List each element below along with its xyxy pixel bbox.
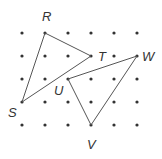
grid-dot <box>66 123 69 126</box>
grid-dot <box>89 100 92 103</box>
grid-dot <box>43 123 46 126</box>
grid-dot <box>112 100 115 103</box>
label-W: W <box>142 49 156 64</box>
grid-dot <box>112 54 115 57</box>
grid-dot <box>112 77 115 80</box>
grid-dot <box>89 77 92 80</box>
dot-grid-diagram: R T S U W V <box>0 0 162 159</box>
grid-dot <box>20 77 23 80</box>
point-labels: R T S U W V <box>8 9 156 152</box>
label-U: U <box>54 83 64 98</box>
grid-dot <box>89 31 92 34</box>
label-T: T <box>98 49 107 64</box>
grid-dot <box>43 100 46 103</box>
label-V: V <box>87 137 97 152</box>
grid-dot <box>20 31 23 34</box>
grid-dots <box>20 31 138 126</box>
grid-dot <box>135 123 138 126</box>
label-R: R <box>42 9 51 24</box>
grid-dot <box>43 54 46 57</box>
grid-dot <box>43 77 46 80</box>
grid-dot <box>135 100 138 103</box>
grid-dot <box>112 31 115 34</box>
triangles <box>22 33 137 125</box>
grid-dot <box>20 54 23 57</box>
grid-dot <box>66 54 69 57</box>
label-S: S <box>8 105 17 120</box>
grid-dot <box>20 123 23 126</box>
triangle-UVW <box>68 56 137 125</box>
grid-dot <box>112 123 115 126</box>
grid-dot <box>66 100 69 103</box>
grid-dot <box>135 31 138 34</box>
grid-dot <box>135 77 138 80</box>
grid-dot <box>66 31 69 34</box>
